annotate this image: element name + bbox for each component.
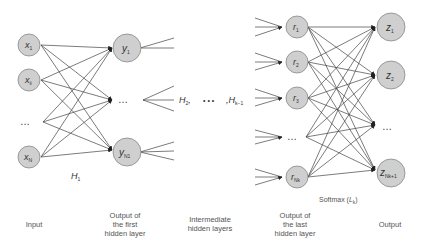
input-layer: x1 xii … xN	[18, 34, 40, 168]
softmax-label: Softmax (Lk)	[319, 196, 358, 205]
caption-last-hidden-line1: Output of	[265, 211, 325, 220]
edges-last-hidden-to-output	[306, 27, 375, 177]
last-hidden-layer: r1 r2 r3 … rNk	[286, 16, 308, 188]
svg-text:• • •: • • •	[203, 97, 215, 104]
network-diagram: x1 xii … xN y1 … yN1 H1 H2, • • • ,Hk−1 …	[0, 0, 422, 247]
h1-label: H1	[71, 171, 81, 182]
node-y1	[113, 34, 141, 62]
output-ellipsis: …	[382, 121, 392, 132]
svg-text:,Hk−1: ,Hk−1	[226, 95, 243, 106]
output-layer: z1 z2 … zNk+1 Softmax (Lk)	[319, 13, 405, 205]
caption-intermediate: Intermediate hidden layers	[180, 215, 240, 233]
caption-intermediate-line1: Intermediate	[180, 215, 240, 224]
caption-input: Input	[14, 220, 54, 229]
caption-first-hidden-line2: the first	[95, 220, 155, 229]
edges-fanin-last-hidden	[255, 18, 282, 185]
h1-ellipsis: …	[118, 94, 128, 105]
caption-output: Output	[365, 220, 415, 229]
node-z2	[377, 61, 405, 89]
input-ellipsis: …	[20, 116, 30, 127]
last-hidden-ellipsis: …	[287, 131, 297, 142]
caption-intermediate-line2: hidden layers	[180, 224, 240, 233]
caption-first-hidden-line3: hidden layer	[95, 229, 155, 238]
edges-input-to-h1	[41, 45, 112, 157]
intermediate-layers-label: H2, • • • ,Hk−1	[179, 95, 243, 106]
edges-h1-fanout	[140, 38, 174, 160]
caption-last-hidden-line3: hidden layer	[265, 229, 325, 238]
caption-last-hidden: Output of the last hidden layer	[265, 211, 325, 238]
svg-text:H2,: H2,	[179, 95, 191, 106]
caption-first-hidden-line1: Output of	[95, 211, 155, 220]
caption-first-hidden: Output of the first hidden layer	[95, 211, 155, 238]
caption-last-hidden-line2: the last	[265, 220, 325, 229]
node-yN1	[113, 138, 141, 166]
first-hidden-layer: y1 … yN1 H1	[71, 34, 141, 182]
node-z1	[377, 13, 405, 41]
